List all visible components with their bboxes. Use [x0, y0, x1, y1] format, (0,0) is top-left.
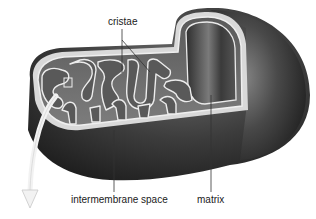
label-matrix: matrix — [197, 195, 224, 205]
matrix-region — [186, 22, 236, 104]
label-intermembrane-space: intermembrane space — [71, 195, 168, 205]
mitochondrion-illustration — [0, 0, 316, 219]
label-cristae: cristae — [108, 17, 137, 27]
mitochondrion-diagram: cristae intermembrane space matrix — [0, 0, 316, 219]
